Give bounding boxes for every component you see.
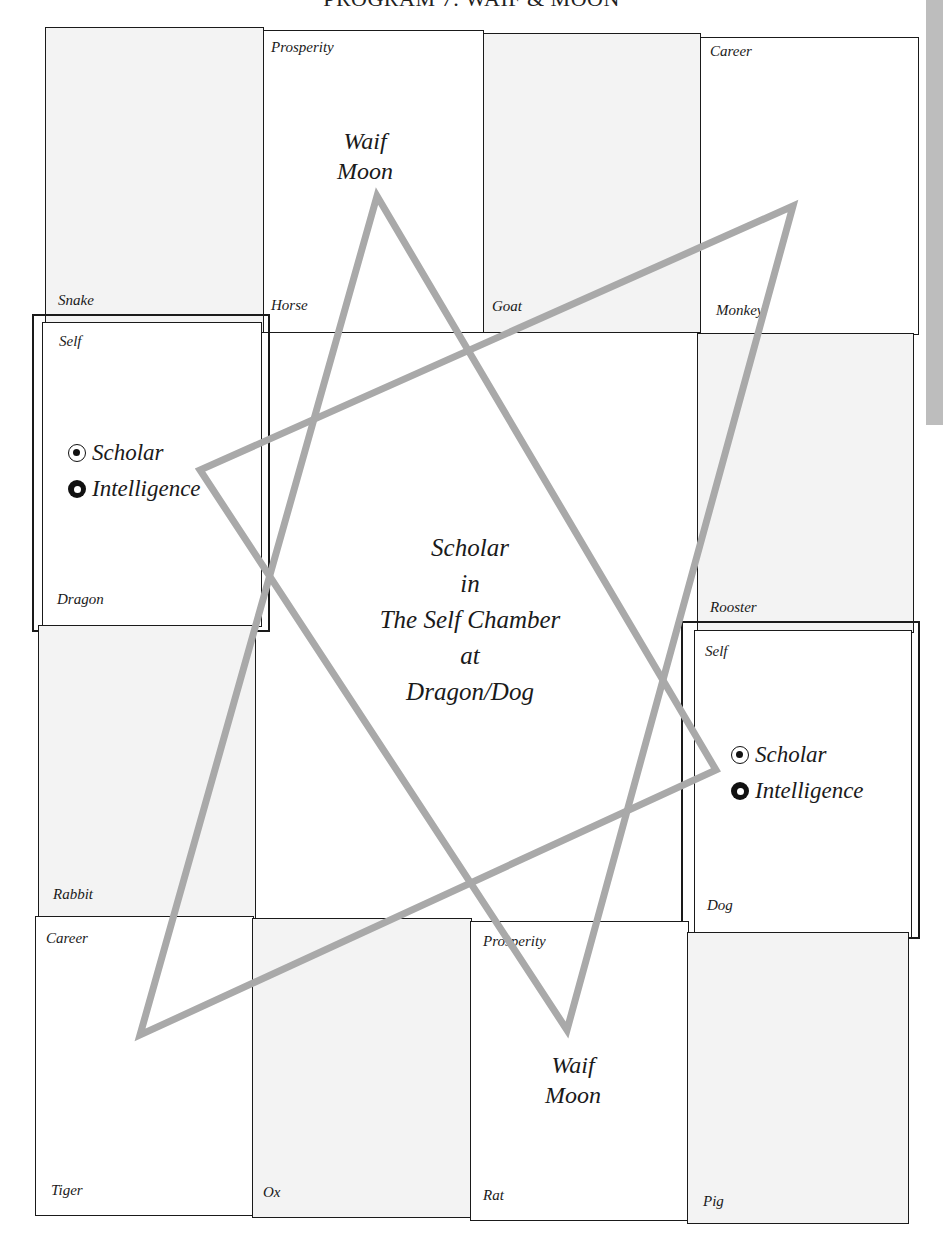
- dot-in-circle-icon: [68, 444, 86, 462]
- center-caption: Scholar in The Self Chamber at Dragon/Do…: [330, 530, 610, 710]
- center-line: The Self Chamber: [330, 602, 610, 638]
- marker-line-2: Moon: [518, 1080, 628, 1110]
- marker-line-2: Moon: [310, 156, 420, 186]
- star-name: Intelligence: [92, 476, 201, 502]
- marker-line-1: Waif: [310, 126, 420, 156]
- star-name: Scholar: [755, 742, 827, 768]
- center-line: Dragon/Dog: [330, 674, 610, 710]
- ring-icon: [68, 480, 86, 498]
- star-intelligence-dog: Intelligence: [731, 778, 864, 804]
- dot-in-circle-icon: [731, 746, 749, 764]
- waif-moon-marker-bottom: Waif Moon: [518, 1050, 628, 1110]
- star-scholar-dog: Scholar: [731, 742, 827, 768]
- center-line: Scholar: [330, 530, 610, 566]
- center-line: in: [330, 566, 610, 602]
- marker-line-1: Waif: [518, 1050, 628, 1080]
- waif-moon-marker-top: Waif Moon: [310, 126, 420, 186]
- star-intelligence-dragon: Intelligence: [68, 476, 201, 502]
- star-name: Intelligence: [755, 778, 864, 804]
- star-name: Scholar: [92, 440, 164, 466]
- ring-icon: [731, 782, 749, 800]
- center-line: at: [330, 638, 610, 674]
- star-scholar-dragon: Scholar: [68, 440, 164, 466]
